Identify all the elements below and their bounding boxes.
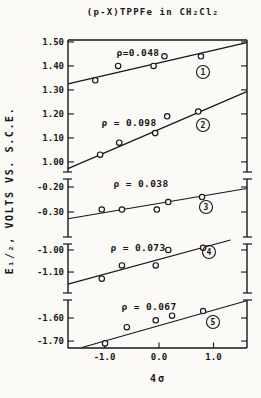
series-number: 4 [207, 248, 212, 257]
x-tick-label: 0.0 [151, 352, 167, 362]
series-number: 3 [204, 203, 209, 212]
data-point [97, 152, 102, 157]
data-point [119, 263, 124, 268]
series-number: 5 [211, 318, 216, 327]
data-point [166, 199, 171, 204]
y-tick-label: -1.70 [37, 336, 64, 346]
data-point [198, 54, 203, 59]
data-point [119, 207, 124, 212]
data-point [153, 263, 158, 268]
y-tick-label: -0.30 [37, 207, 64, 217]
data-point [169, 313, 174, 318]
rho-label: ρ=0.048 [117, 47, 160, 58]
y-tick-label: -1.00 [37, 245, 64, 255]
fit-line [68, 92, 247, 169]
data-point [153, 318, 158, 323]
data-point [151, 63, 156, 68]
y-tick-label: 1.40 [42, 61, 64, 71]
series-number: 1 [201, 68, 206, 77]
x-axis-label: 4σ [58, 373, 258, 384]
figure: (p-X)TPPFe in CH₂Cl₂ E₁/₂, VOLTS VS. S.C… [0, 0, 261, 398]
y-tick-label: -1.60 [37, 313, 64, 323]
data-point [99, 207, 104, 212]
y-tick-label: 1.30 [42, 85, 64, 95]
data-point [99, 276, 104, 281]
rho-label: ρ = 0.067 [121, 301, 176, 312]
rho-label: ρ = 0.038 [113, 178, 168, 189]
data-point [162, 54, 167, 59]
y-tick-label: 1.10 [42, 133, 64, 143]
data-point [200, 308, 205, 313]
data-point [124, 325, 129, 330]
y-tick-label: 1.20 [42, 109, 64, 119]
fit-line [68, 189, 247, 219]
rho-label: ρ = 0.073 [110, 242, 165, 253]
series-number: 2 [201, 121, 206, 130]
data-point [115, 63, 120, 68]
rho-label: ρ = 0.098 [101, 117, 156, 128]
x-tick-label: -1.0 [94, 352, 116, 362]
y-tick-label: -0.20 [37, 182, 64, 192]
data-point [102, 341, 107, 346]
x-tick-label: 1.0 [205, 352, 221, 362]
plot-area: 1.501.401.301.201.101.00-0.20-0.30-1.00-… [0, 0, 261, 398]
data-point [199, 194, 204, 199]
y-tick-label: 1.50 [42, 37, 64, 47]
data-point [166, 247, 171, 252]
data-point [152, 130, 157, 135]
data-point [196, 109, 201, 114]
y-tick-label: -1.10 [37, 267, 64, 277]
data-point [154, 207, 159, 212]
data-point [164, 114, 169, 119]
y-tick-label: 1.00 [42, 157, 64, 167]
data-point [117, 140, 122, 145]
data-point [93, 78, 98, 83]
